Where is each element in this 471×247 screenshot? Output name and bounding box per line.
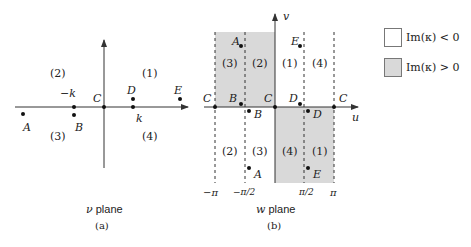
w-point-c-left: C: [203, 92, 211, 105]
w-point-d-bottom: D: [313, 108, 322, 121]
point-a-label: A: [23, 121, 31, 134]
region-1-label: (1): [142, 67, 158, 80]
region-4-label: (4): [142, 130, 158, 143]
legend-swatch-positive: [384, 58, 402, 77]
w-point-a-bottom: A: [254, 168, 262, 181]
tick-pi: π: [330, 187, 337, 198]
tick-half-pi: π/2: [299, 187, 314, 197]
point-c-label: C: [93, 92, 101, 105]
panel-b-caption: w plane: [256, 203, 295, 216]
v-axis-label: v: [283, 10, 289, 23]
w-point-a-top: A: [232, 35, 240, 48]
tick-neg-half-pi: −π/2: [233, 187, 255, 197]
point-e-label: E: [174, 84, 182, 97]
point-b-label: B: [75, 121, 83, 134]
neg-k-label: −k: [60, 87, 76, 100]
w-region-4-bottom: (4): [282, 145, 298, 158]
w-point-c-right: C: [339, 92, 347, 105]
panel-a-axes: [15, 40, 188, 168]
w-region-3-bottom: (3): [252, 145, 268, 158]
w-point-b-bottom: B: [254, 108, 262, 121]
w-region-2-top: (2): [252, 57, 268, 70]
legend-swatch-negative: [384, 28, 402, 47]
w-point-c-mid: C: [264, 92, 272, 105]
w-point-e-top: E: [291, 35, 299, 48]
w-point-d-top: D: [289, 92, 298, 105]
panel-a-sublabel: (a): [95, 220, 109, 231]
panel-b-sublabel: (b): [267, 220, 281, 231]
w-region-1-top: (1): [282, 57, 298, 70]
legend-label-negative: Im(κ) < 0: [406, 31, 459, 44]
w-region-3-top: (3): [222, 57, 238, 70]
tick-neg-pi: −π: [203, 187, 218, 198]
point-d-label: D: [127, 84, 136, 97]
w-point-b-top: B: [229, 92, 237, 105]
w-region-2-bottom: (2): [222, 145, 238, 158]
region-2-label: (2): [50, 67, 66, 80]
w-point-e-bottom: E: [313, 168, 321, 181]
legend-label-positive: Im(κ) > 0: [406, 61, 459, 74]
region-3-label: (3): [50, 130, 66, 143]
u-axis-label: u: [352, 111, 359, 124]
w-region-1-bottom: (1): [312, 145, 328, 158]
w-region-4-top: (4): [312, 57, 328, 70]
k-label: k: [136, 112, 143, 125]
panel-a-caption: ν plane: [86, 203, 123, 216]
